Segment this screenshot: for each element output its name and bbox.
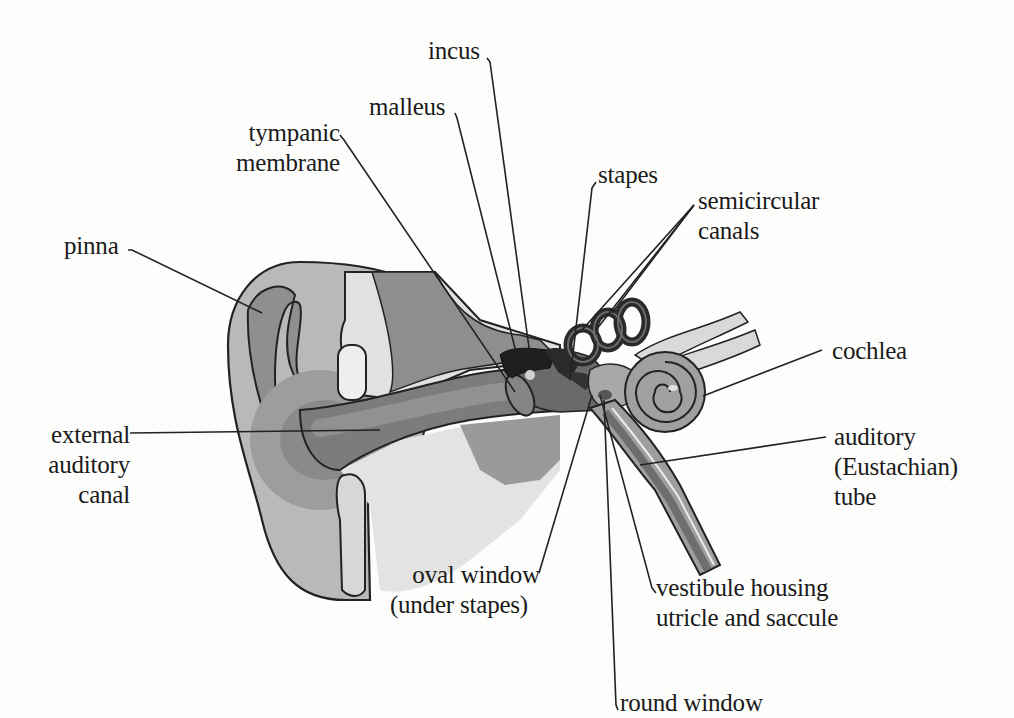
label-round-window: round window <box>620 688 763 718</box>
label-line: incus <box>428 36 480 66</box>
label-line: utricle and saccule <box>656 603 838 633</box>
label-line: round window <box>620 688 763 718</box>
label-oval-window: oval window (under stapes) <box>370 560 540 620</box>
label-semicircular-canals: semicircular canals <box>698 186 819 246</box>
mastoid-cell-upper <box>338 345 366 400</box>
label-vestibule: vestibule housing utricle and saccule <box>656 573 838 633</box>
ear-anatomy-diagram: incus malleus tympanic membrane stapes s… <box>0 0 1014 718</box>
earlobe-fold <box>337 474 365 596</box>
label-pinna: pinna <box>64 231 119 261</box>
label-line: tube <box>834 482 958 512</box>
leader-round-window <box>604 400 618 710</box>
label-line: (under stapes) <box>370 590 528 620</box>
cochlea-shape <box>625 352 705 432</box>
leader-auditory-tube <box>640 437 826 465</box>
label-line: stapes <box>598 160 658 190</box>
label-line: canals <box>698 216 819 246</box>
label-line: oval window <box>370 560 540 590</box>
leader-incus <box>487 58 530 355</box>
label-incus: incus <box>428 36 480 66</box>
label-auditory-tube: auditory (Eustachian) tube <box>834 422 958 512</box>
label-line: malleus <box>369 92 445 122</box>
label-external-auditory-canal: external auditory canal <box>20 420 130 510</box>
leader-semicircular-3 <box>612 205 694 313</box>
label-line: canal <box>20 480 130 510</box>
label-line: tympanic <box>222 118 340 148</box>
label-line: (Eustachian) <box>834 452 958 482</box>
label-tympanic-membrane: tympanic membrane <box>222 118 340 178</box>
label-line: external <box>20 420 130 450</box>
label-line: vestibule housing <box>656 573 838 603</box>
leader-pinna <box>128 250 262 313</box>
label-line: pinna <box>64 231 119 261</box>
label-line: auditory <box>834 422 958 452</box>
leader-semicircular-1 <box>582 205 694 330</box>
label-stapes: stapes <box>598 160 658 190</box>
label-malleus: malleus <box>369 92 445 122</box>
label-line: membrane <box>222 148 340 178</box>
label-line: semicircular <box>698 186 819 216</box>
label-line: auditory <box>20 450 130 480</box>
label-line: cochlea <box>832 336 907 366</box>
leader-stapes <box>570 182 596 380</box>
label-cochlea: cochlea <box>832 336 907 366</box>
